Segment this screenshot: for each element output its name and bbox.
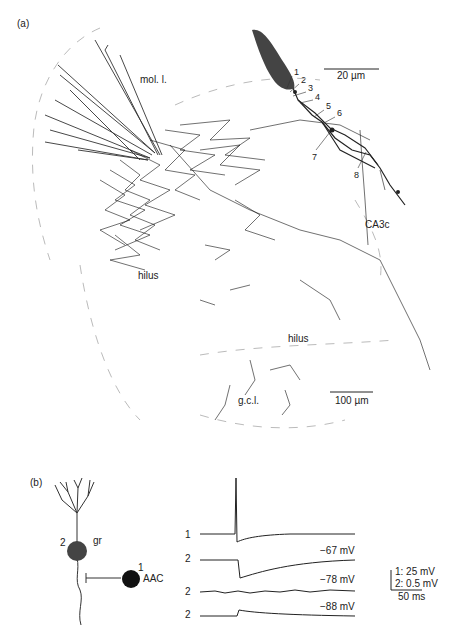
voltage-traces bbox=[200, 478, 355, 616]
scale-bars-b bbox=[391, 570, 422, 590]
aac-synapse bbox=[86, 573, 121, 583]
inset-contact-leaders bbox=[287, 76, 366, 168]
region-boundaries bbox=[32, 28, 395, 428]
granule-cell-soma bbox=[67, 541, 87, 561]
figure-graphics bbox=[0, 0, 460, 633]
dendrite-tree bbox=[45, 40, 162, 160]
aac-soma bbox=[122, 570, 140, 588]
